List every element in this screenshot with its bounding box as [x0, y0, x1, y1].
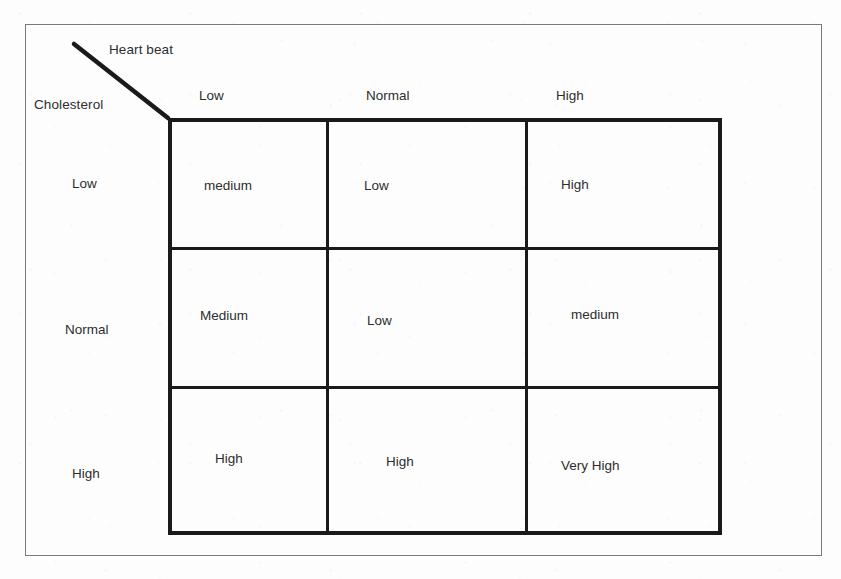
- matrix-cell-label: medium: [571, 307, 619, 322]
- row-header-normal: Normal: [65, 322, 109, 337]
- matrix-cell: High: [172, 389, 329, 531]
- matrix-cell: High: [528, 122, 722, 250]
- row-axis-label: Cholesterol: [34, 97, 103, 112]
- column-header-normal: Normal: [366, 88, 410, 103]
- matrix-cell-label: High: [561, 177, 589, 192]
- risk-matrix-grid: medium Low High Medium Low medium High H…: [168, 118, 722, 535]
- row-header-high: High: [72, 466, 100, 481]
- matrix-cell: Medium: [172, 250, 329, 389]
- column-header-high: High: [556, 88, 584, 103]
- matrix-cell-label: High: [215, 451, 243, 466]
- matrix-cell: Low: [329, 250, 528, 389]
- matrix-cell: Low: [329, 122, 528, 250]
- matrix-cell-label: Medium: [200, 308, 248, 323]
- matrix-cell: medium: [172, 122, 329, 250]
- matrix-cell: High: [329, 389, 528, 531]
- matrix-cell: medium: [528, 250, 722, 389]
- matrix-cell-label: High: [386, 454, 414, 469]
- matrix-cell-label: medium: [204, 178, 252, 193]
- column-axis-label: Heart beat: [109, 42, 173, 57]
- row-header-low: Low: [72, 176, 97, 191]
- matrix-cell-label: Very High: [561, 458, 620, 473]
- column-header-low: Low: [199, 88, 224, 103]
- matrix-cell-label: Low: [364, 178, 389, 193]
- matrix-cell: Very High: [528, 389, 722, 531]
- risk-matrix-page: Heart beat Cholesterol Low Normal High L…: [0, 0, 841, 579]
- matrix-cell-label: Low: [367, 313, 392, 328]
